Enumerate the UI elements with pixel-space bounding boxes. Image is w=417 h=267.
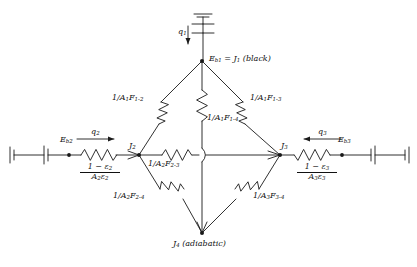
radiation-network-diagram: Eb1 = J1 (black) q1 q2 q3 J2 J3 J4 (adia… xyxy=(0,0,417,267)
node-1-label: Eb1 = J1 (black) xyxy=(209,55,271,64)
left-terminal-symbol xyxy=(10,146,69,164)
surface-2-denominator: A2ε2 xyxy=(80,173,120,182)
wire-hop xyxy=(202,148,206,162)
surface-resistor-3 xyxy=(280,149,342,160)
top-battery-symbol xyxy=(192,14,214,33)
left-source-label: Eb2 xyxy=(60,136,73,145)
resistor-label-1-4: 1/A1F1-4 xyxy=(207,114,238,123)
surface-3-numerator: 1 − ε3 xyxy=(297,163,337,173)
resistor-label-1-2: 1/A1F1-2 xyxy=(112,94,143,103)
node-4-label: J4 (adiabatic) xyxy=(173,240,226,249)
resistor-label-2-3: 1/A2F2-3 xyxy=(148,160,179,169)
surface-resistance-3-label: 1 − ε3 A3ε3 xyxy=(297,163,337,182)
surface-2-numerator: 1 − ε2 xyxy=(80,163,120,173)
resistor-label-2-4: 1/A2F2-4 xyxy=(113,192,144,201)
surface-resistor-2 xyxy=(69,149,139,160)
resistor-label-1-3: 1/A1F1-3 xyxy=(250,94,281,103)
q3-label: q3 xyxy=(318,128,327,137)
branch-1-2 xyxy=(139,61,202,155)
right-terminal-symbol xyxy=(342,146,409,164)
node-3-label: J3 xyxy=(281,142,288,151)
branch-1-4 xyxy=(197,61,208,233)
node-2-label: J2 xyxy=(129,142,136,151)
surface-3-denominator: A3ε3 xyxy=(297,173,337,182)
resistor-label-3-4: 1/A3F3-4 xyxy=(253,192,284,201)
network-graphics xyxy=(0,0,417,267)
q1-label: q1 xyxy=(178,28,187,37)
branch-1-3 xyxy=(202,61,280,155)
q2-label: q2 xyxy=(91,128,100,137)
right-source-label: Eb3 xyxy=(338,136,351,145)
surface-resistance-2-label: 1 − ε2 A2ε2 xyxy=(80,163,120,182)
